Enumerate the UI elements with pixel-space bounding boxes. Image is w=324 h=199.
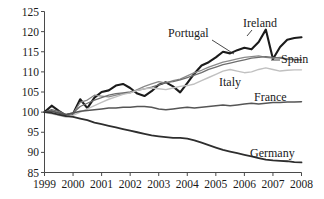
leader-line <box>247 30 252 36</box>
x-tick-label: 2002 <box>119 178 142 190</box>
y-tick-label: 90 <box>28 146 40 158</box>
spain-label: Spain <box>281 52 308 66</box>
italy-label: Italy <box>219 75 241 89</box>
x-tick-label: 2003 <box>147 178 170 190</box>
y-tick-label: 115 <box>22 46 39 58</box>
ireland-label: Ireland <box>243 16 277 30</box>
x-tick-label: 2000 <box>62 178 85 190</box>
germany-label: Germany <box>250 146 295 160</box>
y-tick-label: 105 <box>22 86 40 98</box>
x-tick-label: 1999 <box>33 178 56 190</box>
line-chart: 859095100105110115120125 199920002001200… <box>0 0 324 199</box>
x-tick-label: 2007 <box>261 178 284 190</box>
y-tick-label: 110 <box>22 66 39 78</box>
y-tick-label: 125 <box>22 6 40 18</box>
y-tick-label: 120 <box>22 26 40 38</box>
france-label: France <box>254 90 287 104</box>
x-tick-label: 2001 <box>90 178 113 190</box>
y-axis-tick-labels: 859095100105110115120125 <box>22 6 40 179</box>
x-axis-tick-labels: 1999200020012002200320042005200620072008 <box>33 178 313 190</box>
y-tick-label: 100 <box>22 106 40 118</box>
x-tick-label: 2005 <box>204 178 227 190</box>
portugal-label: Portugal <box>168 26 209 40</box>
y-tick-label: 95 <box>28 126 40 138</box>
chart-canvas: 859095100105110115120125 199920002001200… <box>0 0 324 199</box>
x-tick-label: 2006 <box>233 178 256 190</box>
x-tick-label: 2004 <box>176 178 199 190</box>
x-tick-label: 2008 <box>290 178 313 190</box>
